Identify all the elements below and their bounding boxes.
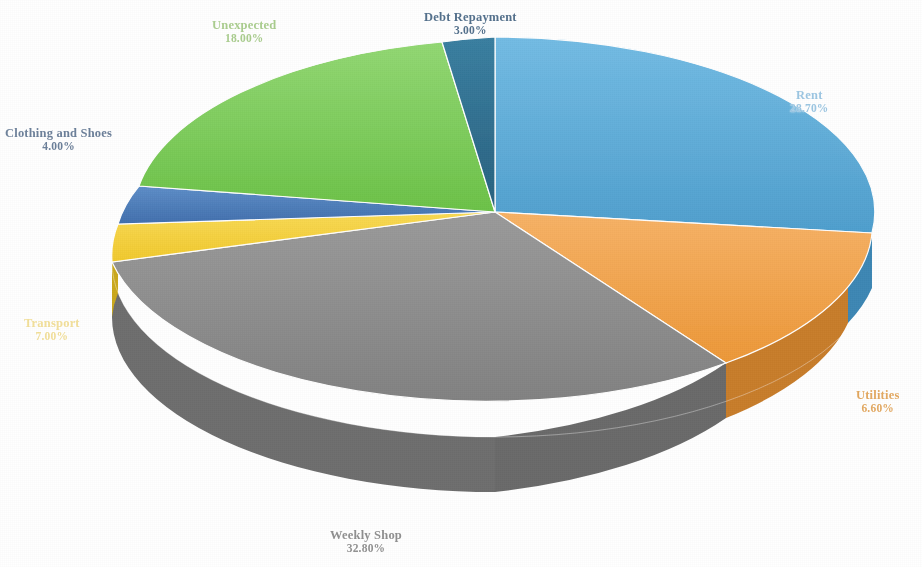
label-utilities: Utilities 6.60% (856, 388, 899, 415)
slice-rent (495, 37, 875, 233)
label-debt-repayment-percent: 3.00% (424, 24, 517, 37)
label-transport-percent: 7.00% (24, 330, 80, 343)
chart-canvas: Debt Repayment 3.00% Unexpected 18.00% C… (0, 0, 922, 567)
pie-top-face (112, 37, 875, 401)
label-unexpected-percent: 18.00% (212, 32, 277, 45)
label-utilities-percent: 6.60% (856, 402, 899, 415)
pie-chart-3d (0, 0, 922, 567)
label-clothing-and-shoes: Clothing and Shoes 4.00% (5, 126, 112, 153)
label-rent: Rent 28.70% (790, 88, 829, 115)
label-weekly-shop: Weekly Shop 32.80% (330, 528, 402, 555)
label-debt-repayment-name: Debt Repayment (424, 10, 517, 24)
label-clothing-and-shoes-percent: 4.00% (5, 140, 112, 153)
slice-unexpected (139, 42, 495, 212)
label-transport-name: Transport (24, 316, 80, 330)
label-weekly-shop-name: Weekly Shop (330, 528, 402, 542)
label-clothing-and-shoes-name: Clothing and Shoes (5, 126, 112, 140)
label-unexpected: Unexpected 18.00% (212, 18, 277, 45)
label-transport: Transport 7.00% (24, 316, 80, 343)
label-utilities-name: Utilities (856, 388, 899, 402)
label-weekly-shop-percent: 32.80% (330, 542, 402, 555)
label-rent-percent: 28.70% (790, 102, 829, 115)
label-rent-name: Rent (790, 88, 829, 102)
label-debt-repayment: Debt Repayment 3.00% (424, 10, 517, 37)
label-unexpected-name: Unexpected (212, 18, 277, 32)
